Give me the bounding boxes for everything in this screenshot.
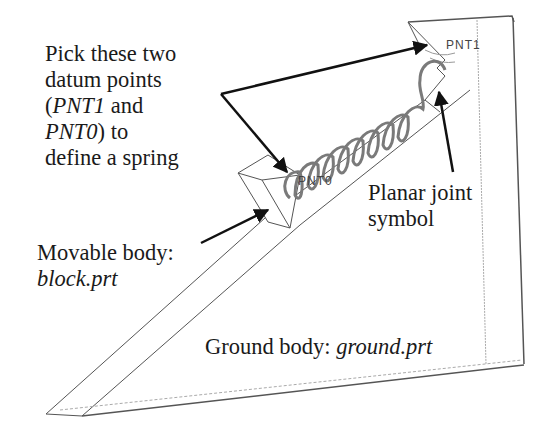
arrow-to-pnt0 [221,94,287,172]
planar-joint-annotation: Planar joint symbol [368,180,472,232]
movable-body-label: Movable body: [37,240,174,266]
ground-body-label: Ground body: [205,334,336,359]
annotation-line: datum points [45,67,179,93]
movable-body-annotation: Movable body: block.prt [37,240,174,292]
annotation-line: PNT0) to [45,119,179,145]
planar-joint-label-line1: Planar joint [368,180,472,206]
text-fragment: and [105,93,143,118]
pnt0-label: PNT0 [298,174,333,188]
arrow-to-block [201,210,268,243]
ground-body-annotation: Ground body: ground.prt [205,334,432,360]
spring-diagram: PNT0 PNT1 Pick these two datum points (P… [0,0,549,434]
movable-body-filename: block.prt [37,266,174,292]
ground-body-filename: ground.prt [336,334,432,359]
pick-points-annotation: Pick these two datum points (PNT1 and PN… [45,41,179,171]
pnt0-reference: PNT0 [45,119,98,144]
text-fragment: ( [45,93,53,118]
annotation-line: define a spring [45,145,179,171]
annotation-line: Pick these two [45,41,179,67]
pnt1-reference: PNT1 [53,93,106,118]
movable-block [238,155,300,228]
pnt1-label: PNT1 [446,38,481,52]
arrow-to-pnt1 [221,45,427,94]
planar-joint-label-line2: symbol [368,206,472,232]
arrow-to-planar-joint [439,92,453,172]
text-fragment: ) to [98,119,129,144]
annotation-line: (PNT1 and [45,93,179,119]
